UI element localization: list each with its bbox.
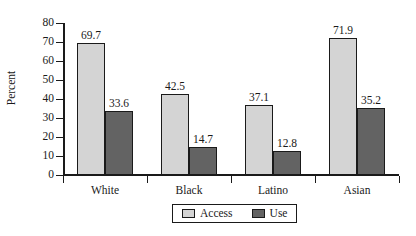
y-axis-tick bbox=[56, 137, 63, 138]
y-axis-tick bbox=[56, 99, 63, 100]
bar-value-label: 12.8 bbox=[277, 137, 297, 149]
y-axis-tick-label: 70 bbox=[2, 36, 54, 48]
bar-value-label: 14.7 bbox=[193, 133, 213, 145]
y-axis-tick bbox=[56, 42, 63, 43]
bar-white-use bbox=[105, 111, 133, 175]
y-axis-tick-label: 10 bbox=[2, 150, 54, 162]
x-axis-separator-tick bbox=[399, 176, 400, 183]
y-axis-tick bbox=[56, 175, 63, 176]
y-axis-tick bbox=[56, 156, 63, 157]
x-axis-separator-tick bbox=[63, 176, 64, 183]
y-axis-title: Percent bbox=[5, 48, 17, 128]
bar-latino-use bbox=[273, 151, 301, 175]
legend-swatch-icon bbox=[182, 209, 195, 218]
bar-black-access bbox=[161, 94, 189, 175]
y-axis-tick bbox=[56, 23, 63, 24]
legend-swatch-icon bbox=[252, 209, 265, 218]
y-axis-tick bbox=[56, 80, 63, 81]
bar-value-label: 71.9 bbox=[333, 24, 353, 36]
chart-legend: AccessUse bbox=[172, 204, 297, 223]
x-axis-category-white: White bbox=[91, 184, 119, 196]
x-axis-separator-tick bbox=[315, 176, 316, 183]
x-axis-separator-tick bbox=[231, 176, 232, 183]
bar-value-label: 33.6 bbox=[109, 97, 129, 109]
x-axis-category-black: Black bbox=[176, 184, 203, 196]
bar-value-label: 42.5 bbox=[165, 80, 185, 92]
bar-black-use bbox=[189, 147, 217, 175]
x-axis-separator-tick bbox=[147, 176, 148, 183]
y-axis-tick bbox=[56, 61, 63, 62]
bar-white-access bbox=[77, 43, 105, 175]
legend-item-access[interactable]: Access bbox=[182, 208, 233, 220]
chart-screenshot: 01020304050607080 Percent WhiteBlackLati… bbox=[0, 0, 416, 236]
x-axis-category-asian: Asian bbox=[344, 184, 371, 196]
y-axis-tick-label: 80 bbox=[2, 17, 54, 29]
bar-asian-use bbox=[357, 108, 385, 175]
bar-asian-access bbox=[329, 38, 357, 175]
legend-item-use[interactable]: Use bbox=[252, 208, 288, 220]
bar-latino-access bbox=[245, 105, 273, 175]
bar-value-label: 37.1 bbox=[249, 91, 269, 103]
bar-value-label: 35.2 bbox=[361, 94, 381, 106]
x-axis-category-latino: Latino bbox=[258, 184, 288, 196]
y-axis-tick-label: 0 bbox=[2, 169, 54, 181]
legend-label: Access bbox=[200, 208, 233, 220]
bar-value-label: 69.7 bbox=[81, 29, 101, 41]
legend-label: Use bbox=[270, 208, 288, 220]
y-axis-tick bbox=[56, 118, 63, 119]
y-axis-tick-label: 20 bbox=[2, 131, 54, 143]
